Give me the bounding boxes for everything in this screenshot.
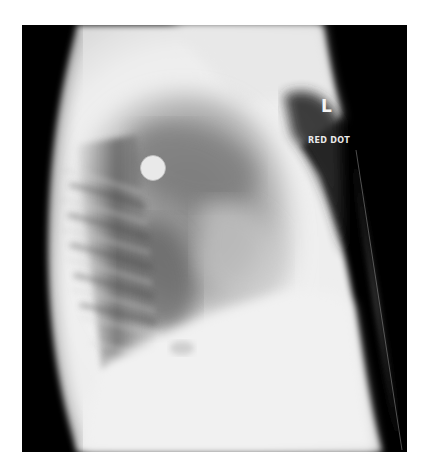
radiograph: L RED DOT	[22, 25, 407, 452]
side-marker-letter: L	[321, 98, 332, 115]
marker-caption: RED DOT	[308, 137, 350, 145]
radiograph-image	[22, 25, 407, 452]
